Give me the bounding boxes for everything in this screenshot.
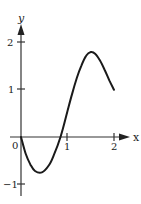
y-tick-label-1: 1 bbox=[8, 84, 14, 95]
y-axis-arrow-icon bbox=[18, 24, 25, 35]
y-tick-label-2: 2 bbox=[7, 37, 13, 48]
origin-label: 0 bbox=[12, 140, 18, 151]
function-plot: y x 2 1 −1 0 1 2 bbox=[0, 0, 141, 204]
x-tick-label-2: 2 bbox=[111, 141, 117, 152]
function-curve bbox=[21, 52, 114, 173]
x-axis-arrow-icon bbox=[119, 134, 130, 141]
x-tick-label-1: 1 bbox=[64, 141, 70, 152]
x-axis-label: x bbox=[133, 131, 140, 144]
y-tick-label-neg1: −1 bbox=[3, 179, 18, 190]
y-axis-label: y bbox=[17, 12, 25, 25]
